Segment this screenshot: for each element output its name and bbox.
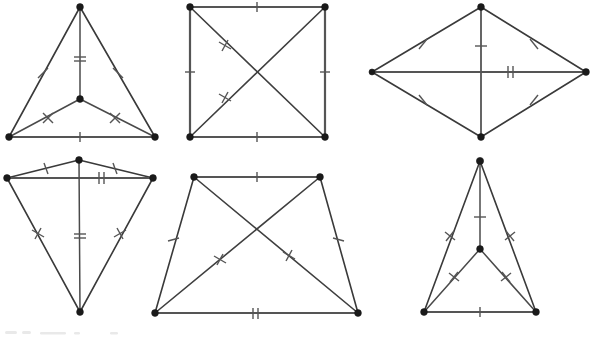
figure-5-vertex-top-right (317, 174, 324, 181)
figure-3-vertex-top (478, 4, 485, 11)
figure-6-tickmark-cevian-left-cross (449, 272, 459, 282)
figure-1-vertex-apex (77, 4, 84, 11)
figure-6-vertex-apex (476, 157, 483, 164)
figure-4-vertex-left (4, 175, 11, 182)
figure-1-vertex-bottom-left (6, 134, 13, 141)
figure-2-vertex-bottom-left (187, 134, 194, 141)
figure-4-edge-left-top (7, 160, 79, 178)
figure-3-edge-right-bottom (481, 72, 586, 137)
figure-2-vertex-bottom-right (322, 134, 329, 141)
figure-4-edge-right-bottom (80, 178, 153, 312)
figure-5-vertex-bottom-left (152, 310, 159, 317)
figure-4-vertex-bottom (77, 309, 84, 316)
figure-3-vertex-right (583, 69, 590, 76)
figure-4-axis-vertical (79, 160, 80, 312)
figure-3-edge-top-right (481, 7, 586, 72)
figure-2-tickmark-diagonal-tr-bl-cross (219, 92, 231, 103)
geometry-figures-canvas (0, 0, 590, 339)
figure-6-edge-apex-bottomright (480, 161, 536, 312)
figure-6-vertex-bottom-left (421, 309, 428, 316)
figure-sheet (0, 0, 590, 339)
figure-5-diagonal-tl-br (194, 177, 358, 313)
figure-6-vertex-interior-center (477, 246, 484, 253)
figure-1-vertex-bottom-right (152, 134, 159, 141)
figure-5-trapezoid-with-diagonals (152, 172, 362, 319)
figure-2-vertex-top-right (322, 4, 329, 11)
figure-1-tickmark-right-edge-single (113, 68, 123, 78)
figure-1-vertex-interior-center (77, 96, 84, 103)
figure-6-edge-apex-bottomleft (424, 161, 480, 312)
figure-4-edge-top-right (79, 160, 153, 178)
figure-5-edge-right-leg (320, 177, 358, 313)
figure-4-kite-with-axis (4, 157, 157, 316)
figure-4-tickmark-left-bottom-edge-cross (32, 228, 44, 239)
figure-5-vertex-top-left (191, 174, 198, 181)
figure-6-tickmark-right-edge-cross (505, 231, 515, 241)
figure-5-edge-left-leg (155, 177, 194, 313)
figure-5-vertex-bottom-right (355, 310, 362, 317)
scan-smudge-artifact (5, 331, 118, 335)
figure-5-diagonal-tr-bl (155, 177, 320, 313)
figure-3-vertex-bottom (478, 134, 485, 141)
figure-3-vertex-left (369, 69, 375, 75)
figure-2-vertex-top-left (187, 4, 194, 11)
figure-2-square-with-diagonals (185, 2, 330, 142)
figure-4-vertex-top (76, 157, 83, 164)
figure-4-edge-left-bottom (7, 178, 80, 312)
figure-5-tickmark-left-leg-single (168, 238, 179, 241)
figure-6-tickmark-cevian-right-cross (501, 272, 511, 282)
figure-1-triangle-with-interior-point (6, 4, 159, 142)
figure-4-vertex-right (150, 175, 157, 182)
figure-6-tall-triangle-with-interior-point (421, 157, 540, 317)
figure-1-tickmark-left-edge-single (38, 68, 48, 78)
figure-3-rhombus-with-diagonals (369, 4, 589, 141)
figure-6-vertex-bottom-right (533, 309, 540, 316)
figure-6-tickmark-left-edge-cross (445, 231, 455, 241)
